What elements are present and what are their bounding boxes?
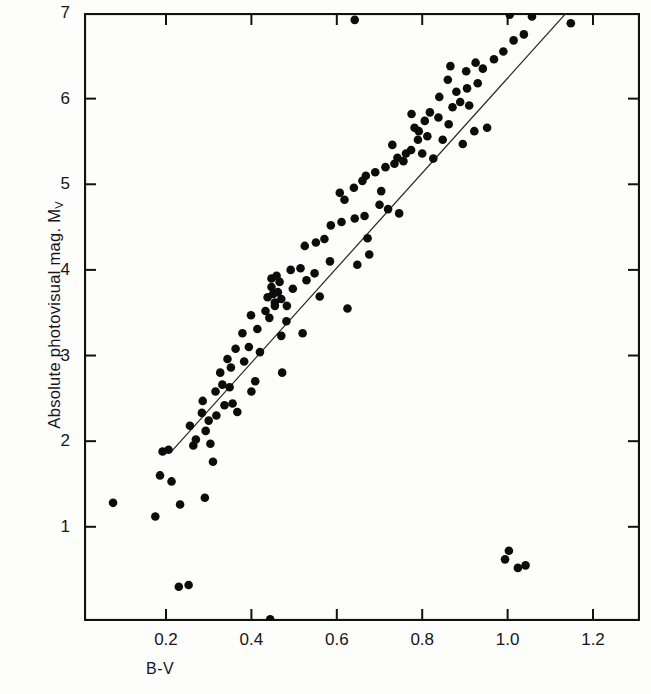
y-axis-title-subscript: V [53, 201, 65, 208]
x-tick-label: 0.4 [240, 630, 264, 650]
scatter-plot-svg [84, 13, 640, 621]
y-tick-label: 7 [40, 3, 70, 23]
y-tick-label: 3 [40, 346, 70, 366]
y-tick-label: 5 [40, 174, 70, 194]
x-tick-label: 1.2 [581, 630, 605, 650]
x-tick-label: 1.0 [496, 630, 520, 650]
y-axis-title: Absolute photovisual mag. MV [45, 105, 65, 525]
y-tick-label: 2 [40, 431, 70, 451]
axis-frame [85, 14, 639, 620]
main-sequence-fit-line [172, 13, 591, 451]
plot-area [84, 13, 640, 621]
y-tick-label: 6 [40, 89, 70, 109]
x-tick-label: 0.6 [325, 630, 349, 650]
y-tick-label: 4 [40, 260, 70, 280]
x-tick-label: 0.2 [154, 630, 178, 650]
y-tick-label: 1 [40, 517, 70, 537]
y-axis-title-text: Absolute photovisual mag. M [45, 209, 63, 429]
x-tick-label: 0.8 [410, 630, 434, 650]
axis-ticks [85, 13, 639, 620]
color-magnitude-figure: Absolute photovisual mag. MV 0.20.40.60.… [0, 0, 651, 694]
x-axis-title: B-V [146, 660, 174, 678]
data-points [109, 13, 575, 621]
